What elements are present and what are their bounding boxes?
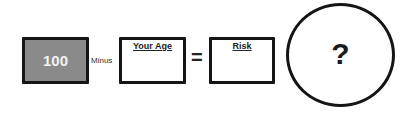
constant-value: 100 (43, 52, 68, 69)
risk-box[interactable]: Risk (209, 37, 275, 84)
constant-100-box: 100 (22, 37, 89, 84)
minus-operator: Minus (91, 56, 112, 65)
your-age-box[interactable]: Your Age (119, 37, 186, 84)
result-circle: ? (286, 3, 395, 107)
your-age-label: Your Age (122, 41, 183, 51)
question-mark-icon: ? (331, 37, 349, 71)
risk-label: Risk (212, 41, 272, 51)
equals-operator: = (191, 47, 203, 67)
